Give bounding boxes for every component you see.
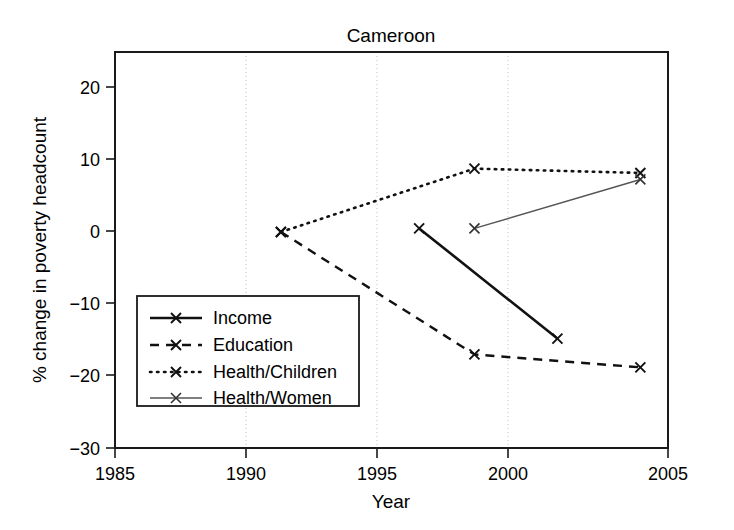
y-tick-label-10: 10 — [80, 150, 100, 170]
x-tick-label-1990: 1990 — [226, 464, 266, 484]
legend-label-education: Education — [213, 335, 293, 355]
legend-label-health-women: Health/Women — [213, 388, 332, 408]
x-axis-label: Year — [372, 491, 411, 512]
x-tick-label-1995: 1995 — [357, 464, 397, 484]
chart-svg: Cameroon % change in poverty headcount Y… — [0, 0, 734, 530]
x-tick-label-2000: 2000 — [488, 464, 528, 484]
y-tick-label-0: 0 — [90, 222, 100, 242]
y-tick-label-neg10: −10 — [69, 294, 100, 314]
x-tick-label-2005: 2005 — [648, 464, 688, 484]
legend-label-health-children: Health/Children — [213, 362, 337, 382]
legend-label-income: Income — [213, 308, 272, 328]
y-tick-label-neg30: −30 — [69, 439, 100, 459]
chart-title: Cameroon — [347, 25, 436, 46]
chart-figure: Cameroon % change in poverty headcount Y… — [0, 0, 734, 530]
legend: Income Education Health/Children Health/… — [137, 296, 359, 408]
y-axis-label: % change in poverty headcount — [29, 116, 50, 383]
x-tick-label-1985: 1985 — [95, 464, 135, 484]
chart-background — [0, 0, 734, 530]
y-tick-label-neg20: −20 — [69, 366, 100, 386]
y-tick-label-20: 20 — [80, 78, 100, 98]
